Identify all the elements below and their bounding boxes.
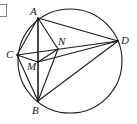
geometry-diagram: A B C D M N bbox=[0, 0, 137, 124]
label-d: D bbox=[120, 34, 129, 46]
label-n: N bbox=[57, 35, 66, 47]
label-c: C bbox=[6, 48, 14, 60]
label-m: M bbox=[26, 60, 37, 72]
segment-ac bbox=[17, 18, 38, 55]
label-b: B bbox=[32, 104, 39, 116]
point-labels: A B C D M N bbox=[6, 5, 129, 116]
segment-md bbox=[38, 41, 118, 62]
label-a: A bbox=[29, 5, 37, 17]
